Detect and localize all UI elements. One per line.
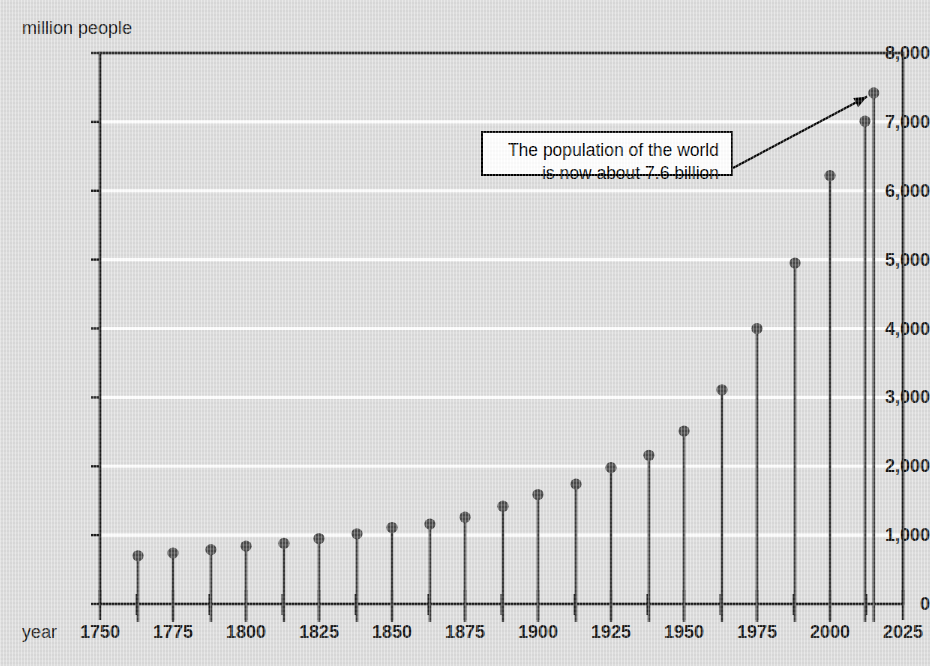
y-tick-label: 7,000	[844, 111, 930, 132]
y-tick-label: 4,000	[844, 318, 930, 339]
x-tick-label: 1950	[664, 622, 704, 643]
x-tick-label: 1775	[153, 622, 193, 643]
x-tick-label: 1800	[226, 622, 266, 643]
population-chart: million people year 01,0002,0003,0004,00…	[0, 0, 930, 666]
x-tick-label: 1750	[80, 622, 120, 643]
x-tick-label: 1825	[299, 622, 339, 643]
x-tick-label: 1850	[372, 622, 412, 643]
y-tick-label: 8,000	[844, 43, 930, 64]
chart-plot-area	[0, 0, 930, 666]
y-tick-label: 1,000	[844, 525, 930, 546]
annotation-line: is now about 7.6 billion	[493, 162, 719, 185]
annotation-line: The population of the world	[493, 139, 719, 162]
x-tick-label: 2025	[883, 622, 923, 643]
y-tick-label: 0	[844, 594, 930, 615]
annotation-callout: The population of the worldis now about …	[481, 131, 733, 176]
y-tick-label: 3,000	[844, 387, 930, 408]
x-tick-label: 2000	[810, 622, 850, 643]
y-tick-label: 5,000	[844, 249, 930, 270]
x-tick-label: 1925	[591, 622, 631, 643]
x-tick-label: 1975	[737, 622, 777, 643]
x-tick-label: 1900	[518, 622, 558, 643]
y-axis-ticks	[91, 53, 100, 604]
x-tick-label: 1875	[445, 622, 485, 643]
y-tick-label: 6,000	[844, 180, 930, 201]
y-tick-label: 2,000	[844, 456, 930, 477]
